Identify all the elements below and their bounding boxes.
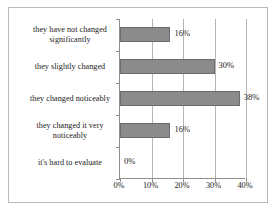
category-label: it's hard to evaluate — [38, 158, 102, 168]
bar-value-label: 30% — [219, 60, 235, 70]
bar-row: 16% — [120, 19, 245, 51]
bar-chart: they have not changed significantly they… — [9, 8, 269, 204]
bar[interactable] — [120, 91, 240, 106]
category-label: they slightly changed — [35, 62, 105, 72]
bar-row: 0% — [120, 147, 245, 179]
x-axis-label: 40% — [237, 181, 252, 190]
x-axis-labels: 0%10%20%30%40% — [119, 181, 245, 197]
category-label-row: they changed it very noticeably — [23, 115, 117, 147]
bar-row: 30% — [120, 51, 245, 83]
x-axis-label: 10% — [143, 181, 158, 190]
bar-value-label: 16% — [174, 28, 190, 38]
category-label: they have not changed significantly — [23, 25, 117, 44]
x-axis-label: 0% — [113, 181, 124, 190]
chart-frame: they have not changed significantly they… — [8, 7, 268, 203]
bar[interactable] — [120, 59, 215, 74]
bar-value-label: 16% — [174, 124, 190, 134]
category-label: they changed noticeably — [30, 94, 110, 104]
category-label: they changed it very noticeably — [23, 121, 117, 140]
category-label-row: they have not changed significantly — [23, 19, 117, 51]
x-axis-label: 20% — [174, 181, 189, 190]
category-label-row: they changed noticeably — [23, 83, 117, 115]
plot-area: 16%30%38%16%0% — [119, 19, 245, 179]
bar-value-label: 0% — [124, 156, 135, 166]
category-label-row: it's hard to evaluate — [23, 147, 117, 179]
bar-value-label: 38% — [244, 92, 260, 102]
bar-row: 38% — [120, 83, 245, 115]
bar[interactable] — [120, 123, 170, 138]
category-axis-labels: they have not changed significantly they… — [23, 19, 117, 179]
category-label-row: they slightly changed — [23, 51, 117, 83]
bar-row: 16% — [120, 115, 245, 147]
bar[interactable] — [120, 27, 170, 42]
x-axis-label: 30% — [206, 181, 221, 190]
